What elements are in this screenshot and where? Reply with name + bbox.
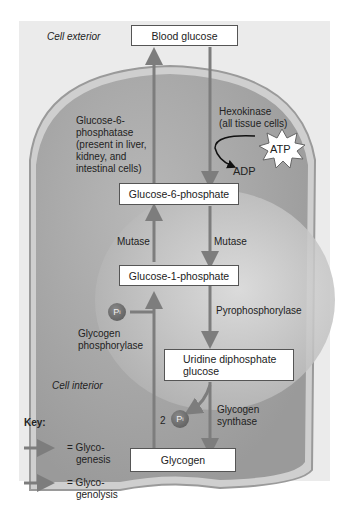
node-udp-glucose-line1: Uridine diphosphate (183, 353, 276, 365)
text-line: Glucose-6- (76, 115, 147, 127)
node-udp-glucose-line2: glucose (183, 365, 219, 377)
label-atp: ATP (270, 143, 291, 155)
legend-key: Key: = Glyco- genesis = Glyco- genolysis (19, 415, 119, 490)
legend-label: = Glyco- (67, 477, 118, 489)
label-adp: ADP (233, 165, 256, 177)
legend-label: genolysis (67, 489, 118, 501)
text-line: phosphatase (76, 127, 147, 139)
phosphate-icon-2: Pi (171, 410, 189, 428)
label-pyrophosphorylase: Pyrophosphorylase (216, 305, 302, 317)
label-glucose-6-phosphatase: Glucose-6- phosphatase (present in liver… (76, 115, 147, 175)
text-line: phosphorylase (78, 340, 143, 352)
pi-subscript: i (119, 309, 120, 315)
node-glucose-6-phosphate: Glucose-6-phosphate (119, 183, 239, 205)
label-two-count: 2 (160, 415, 166, 427)
text-line: synthase (217, 416, 259, 428)
text-line: Glycogen (217, 404, 259, 416)
text-line: (present in liver, (76, 139, 147, 151)
legend-title: Key: (24, 417, 46, 428)
label-mutase-right: Mutase (214, 236, 247, 248)
text-line: kidney, and (76, 151, 147, 163)
node-glucose-1-phosphate: Glucose-1-phosphate (119, 265, 239, 286)
phosphate-icon: Pi (108, 303, 126, 321)
label-hexokinase: Hexokinase (all tissue cells) (219, 106, 287, 130)
legend-label: genesis (67, 454, 110, 466)
pi-subscript: i (182, 416, 183, 422)
text-line: intestinal cells) (76, 163, 147, 175)
label-cell-exterior: Cell exterior (47, 31, 100, 43)
text-line: Hexokinase (219, 106, 287, 118)
label-glycogen-synthase: Glycogen synthase (217, 404, 259, 428)
legend-label: = Glyco- (67, 442, 110, 454)
label-glycogen-phosphorylase: Glycogen phosphorylase (78, 328, 143, 352)
legend-item-glycogenolysis: = Glyco- genolysis (67, 477, 118, 501)
node-glycogen: Glycogen (130, 448, 236, 472)
legend-item-glycogenesis: = Glyco- genesis (67, 442, 110, 466)
text-line: (all tissue cells) (219, 118, 287, 130)
node-blood-glucose: Blood glucose (131, 25, 238, 46)
text-line: Glycogen (78, 328, 143, 340)
label-cell-interior: Cell interior (52, 380, 103, 392)
label-mutase-left: Mutase (117, 236, 150, 248)
node-udp-glucose: Uridine diphosphate glucose (164, 349, 294, 381)
